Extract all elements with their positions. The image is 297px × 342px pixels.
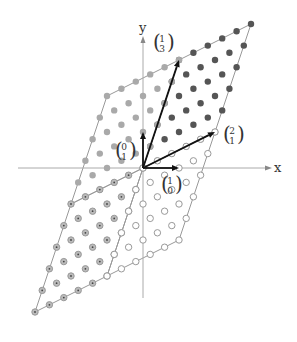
lattice-dot-hollow: [133, 186, 139, 192]
lattice-dot: [190, 86, 196, 92]
lattice-dot-hollow: [169, 222, 175, 228]
e2-label: ()01: [115, 138, 137, 162]
lattice-dot: [82, 158, 88, 164]
lattice-dot: [104, 129, 110, 135]
lattice-dot-hollow: [161, 208, 167, 214]
label-bottom: 3: [159, 44, 165, 54]
lattice-dot: [161, 136, 167, 142]
lattice-dot-hollow: [140, 201, 146, 207]
lattice-dot-hollow: [190, 158, 196, 164]
lattice-dot-hollow: [183, 215, 189, 221]
lattice-dot-center: [41, 290, 43, 292]
lattice-dot-center: [85, 268, 87, 270]
lattice-dot: [183, 107, 189, 113]
lattice-dot-center: [56, 282, 58, 284]
lattice-dot-center: [70, 275, 72, 277]
lattice-dot: [104, 165, 110, 171]
lattice-dot: [111, 107, 117, 113]
lattice-dot-hollow: [154, 230, 160, 236]
lattice-diagram: x y ()10()01()21()13: [0, 0, 297, 342]
lattice-dot-center: [49, 304, 51, 306]
lattice-dot-center: [99, 261, 101, 263]
lattice-dot: [233, 28, 239, 34]
lattice-dot-hollow: [104, 273, 110, 279]
e1-label: ()10: [161, 172, 183, 196]
lattice-dot-center: [128, 174, 130, 176]
lattice-dot: [161, 64, 167, 70]
lattice-dot: [190, 122, 196, 128]
lattice-dot-center: [99, 189, 101, 191]
lattice-dot-center: [77, 254, 79, 256]
shift-minus-v1-v2-outline: [35, 168, 143, 312]
y-axis-label: y: [138, 20, 147, 35]
paren-right: ): [237, 122, 245, 146]
lattice-dot: [176, 93, 182, 99]
lattice-dot-hollow: [154, 194, 160, 200]
v2-label: ()13: [153, 30, 175, 54]
lattice-dot-center: [63, 297, 65, 299]
lattice-dot: [233, 64, 239, 70]
label-bottom: 0: [167, 186, 173, 196]
lattice-dot: [197, 64, 203, 70]
lattice-dot-hollow: [161, 244, 167, 250]
lattice-dot-hollow: [176, 237, 182, 243]
lattice-dot-hollow: [197, 172, 203, 178]
lattice-dot: [147, 71, 153, 77]
lattice-dot: [205, 114, 211, 120]
lattice-dot: [133, 78, 139, 84]
lattice-dot-hollow: [125, 244, 131, 250]
lattice-dot-center: [92, 246, 94, 248]
lattice-dot-center: [63, 225, 65, 227]
lattice-dot-center: [113, 182, 115, 184]
lattice-dot-center: [106, 203, 108, 205]
lattice-dot: [75, 179, 81, 185]
lattice-dot: [154, 86, 160, 92]
lattice-dot-center: [113, 218, 115, 220]
lattice-dot-hollow: [147, 179, 153, 185]
lattice-dot-hollow: [147, 215, 153, 221]
lattice-dot: [190, 50, 196, 56]
lattice-dot: [226, 86, 232, 92]
lattice-dot-hollow: [111, 251, 117, 257]
lattice-dot-hollow: [190, 194, 196, 200]
label-top: 0: [121, 142, 127, 152]
lattice-dot: [133, 114, 139, 120]
label-top: 1: [167, 176, 173, 186]
lattice-dot: [248, 21, 254, 27]
lattice-dot: [219, 107, 225, 113]
lattice-dot: [89, 172, 95, 178]
lattice-dot-center: [70, 203, 72, 205]
lattice-dot-center: [85, 196, 87, 198]
lattice-dot-hollow: [205, 150, 211, 156]
lattice-dot: [226, 50, 232, 56]
lattice-dot: [89, 136, 95, 142]
lattice-dot-center: [92, 282, 94, 284]
paren-right: ): [167, 30, 175, 54]
lattice-dot-center: [85, 232, 87, 234]
lattice-dot-center: [70, 239, 72, 241]
lattice-dot-hollow: [176, 201, 182, 207]
lattice-dot: [118, 86, 124, 92]
lattice-dot: [212, 57, 218, 63]
paren-right: ): [175, 172, 183, 196]
lattice-dot-center: [56, 246, 58, 248]
lattice-dot-center: [106, 239, 108, 241]
lattice-dot: [176, 129, 182, 135]
lattice-dot-hollow: [140, 237, 146, 243]
label-top: 2: [229, 126, 235, 136]
lattice-dot-hollow: [133, 222, 139, 228]
label-top: 1: [159, 34, 165, 44]
lattice-dot: [140, 93, 146, 99]
lattice-dot: [97, 114, 103, 120]
v1-label: ()21: [223, 122, 245, 146]
lattice-dot: [212, 93, 218, 99]
lattice-dot-hollow: [118, 230, 124, 236]
paren-right: ): [129, 138, 137, 162]
lattice-dot-hollow: [147, 251, 153, 257]
y-axis-arrowhead-icon: [141, 36, 146, 43]
lattice-dot: [183, 71, 189, 77]
lattice-dot-center: [77, 218, 79, 220]
lattice-dot-hollow: [118, 266, 124, 272]
lattice-dot-hollow: [133, 258, 139, 264]
lattice-dot-center: [34, 311, 36, 313]
